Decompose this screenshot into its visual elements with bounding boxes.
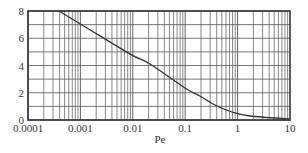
- y-tick-label: 6: [19, 32, 25, 44]
- x-tick-label: 1: [235, 122, 241, 134]
- x-tick-label: 0.1: [178, 122, 192, 134]
- y-tick-label: 2: [19, 87, 25, 99]
- y-tick-label: 4: [19, 60, 25, 72]
- y-tick-label: 8: [19, 5, 25, 17]
- x-tick-label: 0.0001: [13, 122, 43, 134]
- x-tick-label: 0.001: [68, 122, 93, 134]
- x-tick-label: 10: [285, 122, 297, 134]
- chart: 0.00010.0010.010.1110 02468 Pe: [0, 0, 308, 153]
- x-axis-label: Pe: [155, 133, 166, 145]
- x-tick-label: 0.01: [123, 122, 142, 134]
- chart-background: [0, 0, 308, 153]
- y-tick-label: 0: [19, 114, 25, 126]
